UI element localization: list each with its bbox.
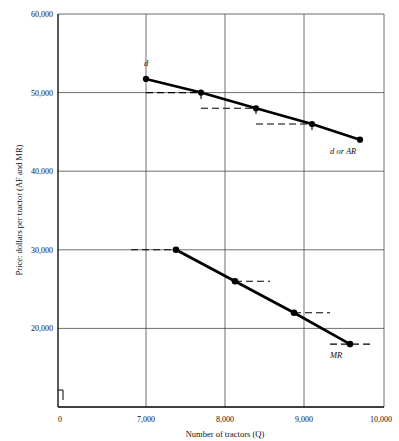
ytick-30000: 30,000 xyxy=(31,246,53,255)
point-mr-2 xyxy=(232,278,239,285)
x-axis-title-text: Number of tractors (Q) xyxy=(186,429,265,439)
xtick-0: 0 xyxy=(58,415,62,424)
xtick-10000: 10,000 xyxy=(370,415,392,424)
chart-container: d d or AR MR 60,000 50,000 40,000 30,000… xyxy=(0,0,399,441)
point-d-2 xyxy=(198,90,204,96)
x-tick-labels: 0 7,000 8,000 9,000 10,000 xyxy=(58,415,392,424)
point-mr-4 xyxy=(347,341,354,348)
x-axis-title: Number of tractors (Q) xyxy=(186,429,265,439)
ytick-40000: 40,000 xyxy=(31,167,53,176)
y-axis-title: Price: dollars per tractor (AF and MR) xyxy=(14,144,24,275)
economics-line-chart: d d or AR MR 60,000 50,000 40,000 30,000… xyxy=(0,0,399,441)
plot-background xyxy=(58,14,384,407)
point-mr-1 xyxy=(173,247,180,254)
xtick-7000: 7,000 xyxy=(137,415,155,424)
xtick-9000: 9,000 xyxy=(295,415,313,424)
ytick-20000: 20,000 xyxy=(31,324,53,333)
xtick-8000: 8,000 xyxy=(216,415,234,424)
label-mr: MR xyxy=(329,350,343,360)
point-d-1 xyxy=(143,76,149,82)
y-axis-title-text: Price: dollars per tractor (AF and MR) xyxy=(14,144,24,275)
label-d-or-ar: d or AR xyxy=(330,146,357,156)
ytick-60000: 60,000 xyxy=(31,10,53,19)
point-d-3 xyxy=(253,105,259,111)
ytick-50000: 50,000 xyxy=(31,89,53,98)
y-tick-labels: 60,000 50,000 40,000 30,000 20,000 xyxy=(31,10,53,333)
point-mr-3 xyxy=(291,309,298,316)
point-d-4 xyxy=(309,121,315,127)
point-d-5 xyxy=(357,137,363,143)
